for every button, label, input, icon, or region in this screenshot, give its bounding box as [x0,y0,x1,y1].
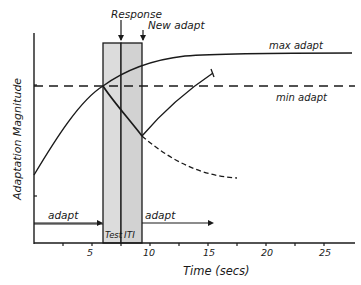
adapt-right-arrowhead [208,220,214,226]
iti-label: ITI [124,230,135,240]
adapt-right-label: adapt [145,209,176,221]
test-label: Test [105,230,123,240]
new-adapt-arrowhead [140,35,146,41]
tick-label-20: 20 [261,247,273,258]
response-arrowhead [118,35,124,41]
readapt-curve [142,73,213,136]
max-adapt-curve [34,53,352,175]
y-axis-label: Adaptation Magnitude [11,78,24,201]
adaptation-diagram: Response New adapt max adapt min adapt a… [0,0,361,285]
min-adapt-label: min adapt [276,92,328,103]
new-adapt-label: New adapt [148,19,205,31]
x-axis-label: Time (secs) [183,264,250,278]
tick-label-10: 10 [143,247,155,258]
max-adapt-label: max adapt [269,40,324,51]
adapt-left-arrowhead [97,220,103,226]
tick-label-25: 25 [319,247,331,258]
readapt-end-tick [211,69,214,77]
tick-label-15: 15 [203,247,215,258]
adapt-left-label: adapt [48,209,79,221]
continued-decay-curve [142,136,237,178]
test-region [103,43,121,243]
tick-label-5: 5 [87,247,93,258]
